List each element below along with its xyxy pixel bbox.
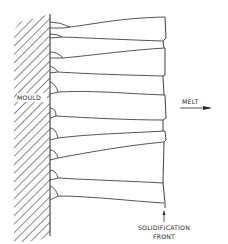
solidification-diagram: MOULD — [0, 0, 228, 244]
svg-text:MELT: MELT — [182, 98, 198, 105]
svg-text:FRONT: FRONT — [153, 233, 175, 240]
arrow-up-icon — [163, 210, 166, 215]
mould-hatching — [12, 12, 50, 242]
solidification-front-indicator: SOLIDIFICATION FRONT — [138, 210, 190, 240]
svg-text:SOLIDIFICATION: SOLIDIFICATION — [138, 224, 190, 231]
mould-label: MOULD — [17, 93, 47, 102]
svg-text:MOULD: MOULD — [17, 94, 41, 101]
solidification-front-edge — [163, 17, 166, 208]
melt-indicator: MELT — [180, 98, 212, 110]
grain-boundaries — [50, 17, 165, 203]
arrow-right-icon — [203, 106, 212, 110]
